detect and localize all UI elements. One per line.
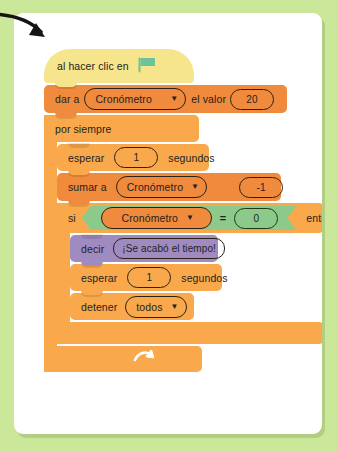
block-wait-1[interactable]: esperar 1 segundos: [57, 144, 209, 171]
block-if-then[interactable]: si Cronómetro ▼ = 0 entonces: [57, 203, 322, 344]
if-footer: [57, 322, 322, 344]
if-header[interactable]: si Cronómetro ▼ = 0 entonces: [57, 203, 322, 233]
change-variable-prefix-label: sumar a: [68, 181, 107, 193]
change-variable-dropdown[interactable]: Cronómetro ▼: [116, 176, 207, 198]
block-say[interactable]: decir ¡Se acabó el tiempo!: [70, 235, 218, 262]
block-forever[interactable]: por siempre esperar 1 segundos sumar a C…: [44, 115, 322, 372]
if-condition-variable-value: Cronómetro: [122, 212, 178, 224]
chevron-down-icon: ▼: [191, 183, 199, 191]
set-variable-dropdown[interactable]: Cronómetro ▼: [84, 88, 186, 110]
wait-2-seconds-input[interactable]: 1: [127, 267, 171, 288]
if-body: decir ¡Se acabó el tiempo! esperar 1 seg…: [70, 235, 322, 320]
block-change-variable[interactable]: sumar a Cronómetro ▼ -1: [57, 173, 281, 201]
script-card: al hacer clic en dar a Cronómetro ▼ el v…: [14, 13, 322, 434]
block-stop[interactable]: detener todos ▼: [70, 293, 194, 320]
set-variable-middle-label: el valor: [191, 93, 226, 105]
when-flag-clicked-label: al hacer clic en: [57, 60, 129, 72]
script-stack: al hacer clic en dar a Cronómetro ▼ el v…: [44, 49, 322, 372]
set-variable-value-input[interactable]: 20: [230, 89, 274, 110]
if-condition-right-input[interactable]: 0: [234, 208, 278, 229]
forever-label: por siempre: [55, 123, 112, 135]
say-prefix-label: decir: [81, 243, 104, 255]
stop-option-dropdown[interactable]: todos ▼: [125, 296, 186, 318]
wait-1-prefix-label: esperar: [68, 152, 104, 164]
stop-prefix-label: detener: [81, 301, 117, 313]
set-variable-dropdown-value: Cronómetro: [95, 93, 151, 105]
loop-arrow-icon: [132, 350, 154, 368]
wait-2-suffix-label: segundos: [181, 272, 227, 284]
if-condition-variable-dropdown[interactable]: Cronómetro ▼: [101, 207, 212, 229]
block-set-variable[interactable]: dar a Cronómetro ▼ el valor 20: [44, 85, 287, 113]
change-variable-dropdown-value: Cronómetro: [127, 181, 183, 193]
if-suffix-label: entonces: [306, 212, 322, 224]
wait-1-seconds-input[interactable]: 1: [114, 147, 158, 168]
wait-2-prefix-label: esperar: [81, 272, 117, 284]
say-message-input[interactable]: ¡Se acabó el tiempo!: [113, 238, 225, 259]
forever-footer: [44, 346, 202, 372]
chevron-down-icon: ▼: [171, 303, 179, 311]
change-variable-value-input[interactable]: -1: [239, 177, 283, 198]
stop-option-value: todos: [136, 301, 162, 313]
forever-header[interactable]: por siempre: [44, 115, 199, 142]
forever-left-spine: [44, 115, 57, 372]
operator-equals-block[interactable]: Cronómetro ▼ = 0: [82, 206, 297, 230]
equals-operator-label: =: [220, 212, 227, 224]
forever-body: esperar 1 segundos sumar a Cronómetro ▼ …: [57, 144, 322, 344]
block-when-flag-clicked[interactable]: al hacer clic en: [44, 49, 194, 83]
chevron-down-icon: ▼: [170, 95, 178, 103]
wait-1-suffix-label: segundos: [168, 152, 214, 164]
chevron-down-icon: ▼: [186, 214, 194, 222]
set-variable-prefix-label: dar a: [55, 93, 79, 105]
if-prefix-label: si: [68, 212, 76, 224]
block-wait-2[interactable]: esperar 1 segundos: [70, 264, 222, 291]
green-flag-icon: [138, 57, 157, 75]
